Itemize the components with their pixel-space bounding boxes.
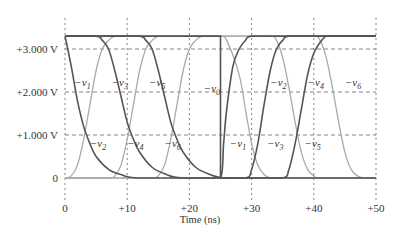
chart-canvas: 0+10+20+30+40+500+1.000 V+2.000 V+3.000 … xyxy=(0,0,401,232)
x-tick-label: +40 xyxy=(305,202,323,214)
y-tick-label: 0 xyxy=(53,172,59,184)
y-tick-label: +1.000 V xyxy=(17,129,59,141)
y-tick-label: +3.000 V xyxy=(17,43,59,55)
curve-label: −v0 xyxy=(204,82,220,97)
x-tick-label: 0 xyxy=(62,202,68,214)
x-tick-label: +10 xyxy=(119,202,137,214)
curve-label: −v6 xyxy=(345,76,361,91)
curve-label: −v1 xyxy=(74,76,90,91)
curve-label: −v1 xyxy=(230,137,246,152)
curve-label: −v2 xyxy=(270,76,286,91)
curve-label: −v5 xyxy=(304,137,320,152)
y-tick-label: +2.000 V xyxy=(17,86,59,98)
x-axis-title: Time (ns) xyxy=(180,214,221,226)
curves xyxy=(65,36,376,178)
curve-label: −v4 xyxy=(308,76,324,91)
curve-label: −v6 xyxy=(165,137,181,152)
waveform-chart: 0+10+20+30+40+500+1.000 V+2.000 V+3.000 … xyxy=(0,0,401,232)
curve-labels: −v0−v1−v2−v3−v4−v5−v6−v2−v4−v6−v1−v3−v5 xyxy=(74,76,361,152)
x-tick-label: +30 xyxy=(243,202,261,214)
x-tick-label: +20 xyxy=(181,202,199,214)
x-tick-label: +50 xyxy=(367,202,385,214)
curve-label: −v3 xyxy=(267,137,283,152)
curve-label: −v4 xyxy=(127,137,143,152)
curve-label: −v5 xyxy=(149,76,165,91)
